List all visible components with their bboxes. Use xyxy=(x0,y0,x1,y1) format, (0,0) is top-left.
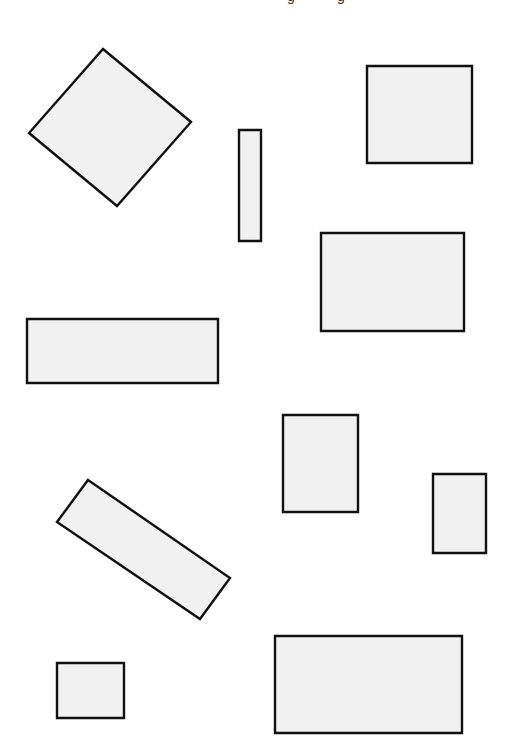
bottom-left-small-rect-shape xyxy=(57,663,124,718)
diamond-square-shape xyxy=(29,49,191,206)
top-right-square-shape xyxy=(367,66,472,163)
left-wide-rect-shape xyxy=(27,319,218,383)
bottom-right-wide-rect-shape xyxy=(275,636,462,733)
shapes-canvas xyxy=(0,0,507,751)
thin-vertical-rect-shape xyxy=(239,130,261,241)
center-tall-rect-shape xyxy=(283,415,358,512)
right-small-tall-rect-shape xyxy=(433,474,486,553)
tilted-rect-shape xyxy=(57,480,230,619)
middle-right-rect-shape xyxy=(321,233,464,331)
